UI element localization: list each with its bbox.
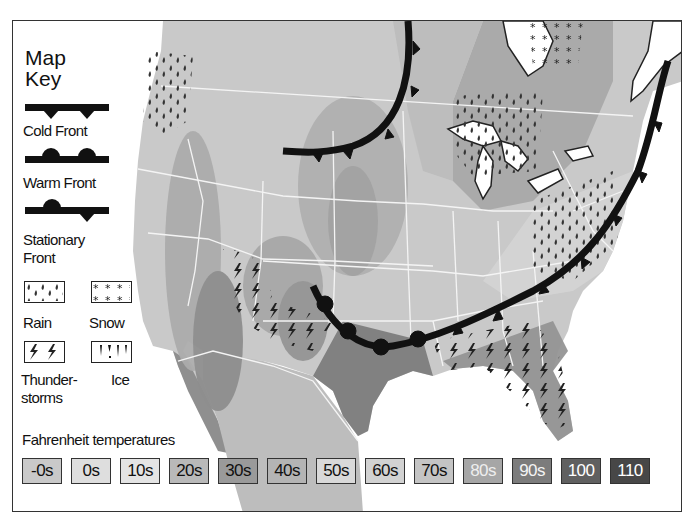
temperature-swatch: 70s	[414, 458, 454, 484]
temperature-swatch: -0s	[22, 458, 62, 484]
stationary-front-label-line2: Front	[23, 249, 85, 267]
cold-front-icon	[25, 102, 111, 122]
temperature-swatch: 110	[610, 458, 650, 484]
temperature-swatch: 100	[561, 458, 601, 484]
temperature-swatch: 10s	[120, 458, 160, 484]
stationary-front-icon	[25, 197, 111, 225]
map-key-title-line1: Map	[25, 47, 105, 68]
ice-icon	[91, 341, 132, 363]
snow-label: Snow	[89, 314, 124, 331]
temperature-swatch: 80s	[463, 458, 503, 484]
temperature-swatch: 40s	[267, 458, 307, 484]
temperature-swatch: 60s	[365, 458, 405, 484]
temperature-swatch: 30s	[218, 458, 258, 484]
cold-front-label: Cold Front	[23, 122, 87, 139]
stationary-front-label: Stationary Front	[23, 231, 85, 267]
rain-icon	[24, 281, 65, 303]
thunderstorms-label: Thunder- storms	[21, 371, 77, 407]
ice-label: Ice	[111, 371, 129, 388]
temperature-legend: -0s0s10s20s30s40s50s60s70s80s90s100110	[22, 458, 650, 484]
temperature-swatch: 0s	[71, 458, 111, 484]
map-key-title-line2: Key	[25, 68, 105, 89]
thunderstorms-icon	[24, 341, 65, 363]
thunderstorms-label-line2: storms	[21, 389, 77, 407]
rain-label: Rain	[23, 314, 51, 331]
stationary-front-label-line1: Stationary	[23, 231, 85, 249]
map-key-title: Map Key	[25, 47, 105, 89]
thunderstorms-label-line1: Thunder-	[21, 371, 77, 389]
weather-map-frame: *	[12, 20, 682, 512]
temperature-swatch: 90s	[512, 458, 552, 484]
snow-icon	[91, 281, 132, 303]
temperature-swatch: 20s	[169, 458, 209, 484]
temperature-legend-title: Fahrenheit temperatures	[22, 431, 175, 448]
temperature-swatch: 50s	[316, 458, 356, 484]
warm-front-label: Warm Front	[23, 174, 96, 191]
warm-front-icon	[25, 146, 111, 166]
